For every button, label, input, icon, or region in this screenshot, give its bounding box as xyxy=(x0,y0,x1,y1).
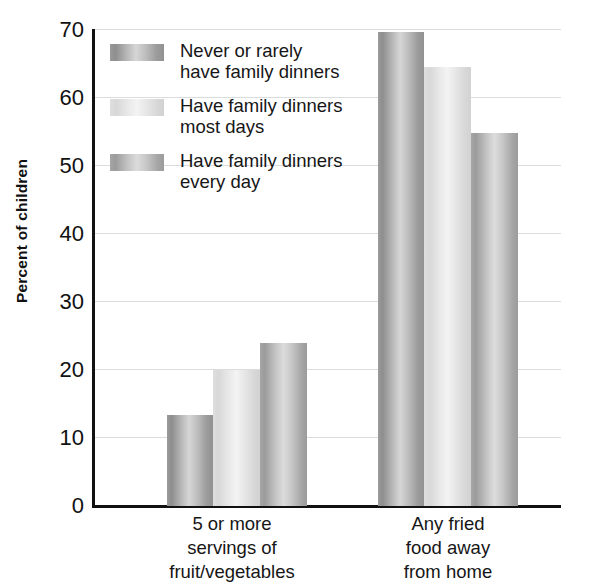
bar-cat1-series1 xyxy=(424,67,471,506)
y-tick-30: 30 xyxy=(28,291,84,313)
legend-item-0: Never or rarely have family dinners xyxy=(110,40,360,82)
y-tick-50: 50 xyxy=(28,155,84,177)
legend-label-series0: Never or rarely have family dinners xyxy=(180,40,339,82)
y-tick-40: 40 xyxy=(28,223,84,245)
legend-swatch-series2 xyxy=(110,154,164,171)
y-tick-70: 70 xyxy=(28,19,84,41)
y-tick-0: 0 xyxy=(28,495,84,517)
bar-chart: Percent of children 70 60 50 40 30 20 10… xyxy=(0,0,598,588)
legend-swatch-series1 xyxy=(110,99,164,116)
bar-cat0-series1 xyxy=(213,370,260,506)
bar-cat1-series2 xyxy=(471,133,518,506)
y-tick-10: 10 xyxy=(28,427,84,449)
legend-swatch-series0 xyxy=(110,44,164,61)
y-tick-20: 20 xyxy=(28,359,84,381)
x-label-cat0: 5 or more servings of fruit/vegetables xyxy=(137,512,327,584)
legend-item-2: Have family dinners every day xyxy=(110,150,360,192)
x-axis-category-labels: 5 or more servings of fruit/vegetables A… xyxy=(95,512,561,588)
legend-item-1: Have family dinners most days xyxy=(110,95,360,137)
x-label-cat1: Any fried food away from home xyxy=(353,512,543,584)
legend-label-series2: Have family dinners every day xyxy=(180,150,342,192)
y-axis-tick-labels: 70 60 50 40 30 20 10 0 xyxy=(20,0,84,520)
bar-cat0-series0 xyxy=(167,415,213,506)
y-tick-60: 60 xyxy=(28,87,84,109)
legend-label-series1: Have family dinners most days xyxy=(180,95,342,137)
bar-cat0-series2 xyxy=(260,343,307,506)
legend: Never or rarely have family dinners Have… xyxy=(110,40,360,205)
bar-cat1-series0 xyxy=(378,32,424,506)
